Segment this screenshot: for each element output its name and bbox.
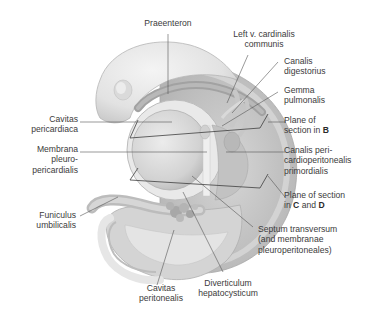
label-canalis-digestorius: Canalis digestorius <box>284 56 326 77</box>
label-cavitas-pericardiaca: Cavitas pericardiaca <box>10 114 78 135</box>
label-praeenteron: Praeenteron <box>138 18 198 28</box>
label-diverticulum-hepatocysticum: Diverticulum hepatocysticum <box>190 278 266 299</box>
label-funiculus-umbilicalis: Funiculus umbilicalis <box>10 210 76 231</box>
label-cavitas-peritonealis: Cavitas peritonealis <box>130 283 192 304</box>
label-canalis-pericardioperitonealis: Canalis peri- cardioperitonealis primord… <box>284 145 351 176</box>
label-membrana-pleuropericardialis: Membrana pleuro- pericardialis <box>10 144 78 175</box>
label-plane-cd: Plane of section in C and D <box>284 190 345 211</box>
label-plane-b: Plane of section in B <box>284 115 329 136</box>
label-gemma-pulmonalis: Gemma pulmonalis <box>284 85 325 106</box>
label-septum-transversum: Septum transversum (and membranae pleuro… <box>258 224 337 255</box>
label-left-v-cardinalis: Left v. cardinalis communis <box>224 29 304 50</box>
